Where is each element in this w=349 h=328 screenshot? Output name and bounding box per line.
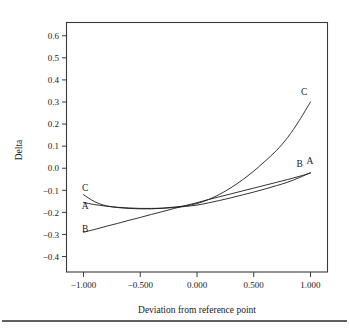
curve-b: [84, 173, 311, 232]
y-tick-label: −0.4: [43, 252, 60, 262]
x-tick-label: −0.500: [128, 280, 154, 290]
x-tick-label: 0.500: [244, 280, 265, 290]
y-tick-label: 0.6: [48, 31, 60, 41]
x-tick-label: 1.000: [300, 280, 321, 290]
y-tick-label: 0.4: [48, 75, 60, 85]
x-tick-label: 0.000: [187, 280, 208, 290]
series-label-b-left: B: [82, 224, 88, 234]
series-label-a-right: A: [306, 156, 313, 166]
series-label-a-left: A: [82, 201, 89, 211]
y-tick-label: 0.2: [48, 119, 59, 129]
y-tick-label: −0.3: [43, 230, 60, 240]
y-tick-label: 0.5: [48, 53, 60, 63]
x-axis-tick-labels: −1.000−0.5000.0000.5001.000: [71, 280, 321, 290]
y-tick-label: 0.1: [48, 141, 59, 151]
x-axis-title: Deviation from reference point: [138, 305, 256, 315]
plot-frame: [67, 23, 328, 273]
series-label-c-left: C: [82, 183, 88, 193]
y-tick-label: −0.2: [43, 208, 59, 218]
y-tick-label: 0.3: [48, 97, 60, 107]
y-axis-tick-labels: 0.60.50.40.30.20.10.0−0.1−0.2−0.3−0.4: [43, 31, 60, 262]
curve-c: [84, 102, 311, 209]
x-tick-label: −1.000: [71, 280, 97, 290]
y-tick-label: 0.0: [48, 163, 60, 173]
series-label-c-right: C: [301, 87, 307, 97]
y-tick-label: −0.1: [43, 186, 59, 196]
y-axis-title: Delta: [14, 139, 24, 160]
figure-container: 0.60.50.40.30.20.10.0−0.1−0.2−0.3−0.4 −1…: [0, 0, 349, 328]
y-axis-ticks: [62, 36, 67, 257]
data-series-group: [84, 102, 311, 232]
line-chart: 0.60.50.40.30.20.10.0−0.1−0.2−0.3−0.4 −1…: [0, 0, 349, 328]
series-label-b-right: B: [297, 159, 303, 169]
series-endpoint-labels: CABCBA: [82, 87, 314, 234]
x-axis-ticks: [84, 272, 311, 277]
